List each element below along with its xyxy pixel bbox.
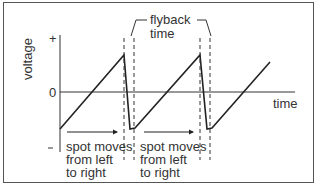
y-tick-zero: 0 bbox=[49, 86, 56, 99]
flyback-time-label: time bbox=[150, 27, 175, 40]
y-tick-plus: + bbox=[49, 32, 57, 45]
flyback-bracket-right bbox=[197, 20, 211, 36]
x-axis-label: time bbox=[273, 97, 298, 110]
sweep-note-1: spot moves from left to right bbox=[66, 140, 132, 179]
flyback-label: flyback bbox=[150, 13, 190, 26]
flyback-bracket-left bbox=[131, 20, 147, 36]
y-axis-label: voltage bbox=[20, 38, 35, 80]
sweep-note-2: spot moves from left to right bbox=[140, 140, 206, 179]
